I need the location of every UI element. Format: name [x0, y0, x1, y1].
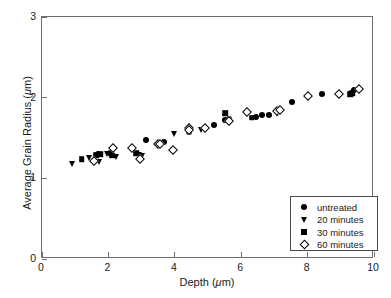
data-point	[249, 115, 255, 121]
data-point	[289, 99, 295, 105]
data-point	[350, 91, 356, 97]
data-point	[319, 91, 325, 97]
scatter-plot-figure: Depth (μm) Average Grain Radius (μm) unt…	[0, 0, 391, 298]
x-axis-tick	[108, 252, 109, 257]
legend-label: 60 minutes	[317, 239, 363, 250]
y-axis-tick	[42, 17, 47, 18]
x-axis-tick	[42, 252, 43, 257]
y-axis-tick	[42, 97, 47, 98]
x-axis-tick-label: 10	[367, 261, 379, 273]
x-axis-tick-label: 0	[38, 261, 44, 273]
y-axis-tick-label: 3	[24, 10, 36, 22]
legend-item: 20 minutes	[291, 214, 377, 226]
data-point	[211, 122, 217, 128]
legend-label: untreated	[317, 202, 357, 213]
x-axis-tick	[241, 252, 242, 257]
x-axis-tick	[307, 252, 308, 257]
data-point	[222, 110, 228, 116]
y-axis-tick-label: 2	[24, 91, 36, 103]
data-point	[168, 145, 178, 155]
legend-item: 60 minutes	[291, 239, 377, 251]
legend-item: untreated	[291, 201, 377, 213]
data-point	[259, 112, 265, 118]
legend-marker-icon	[291, 201, 317, 213]
x-axis-title: Depth (μm)	[41, 276, 373, 288]
y-axis-tick-label: 0	[24, 252, 36, 264]
data-point	[69, 161, 75, 167]
x-axis-tick-label: 4	[171, 261, 177, 273]
legend-marker-icon	[291, 214, 317, 226]
data-point	[110, 153, 116, 159]
x-axis-tick-label: 2	[104, 261, 110, 273]
data-point	[303, 91, 313, 101]
data-point	[335, 89, 345, 99]
legend: untreated20 minutes30 minutes60 minutes	[290, 196, 378, 251]
x-axis-tick	[174, 252, 175, 257]
data-point	[171, 131, 177, 137]
legend-label: 20 minutes	[317, 214, 363, 225]
x-axis-tick-label: 6	[237, 261, 243, 273]
y-axis-tick	[42, 259, 47, 260]
y-axis-title: Average Grain Radius (μm)	[21, 53, 33, 233]
y-axis-tick	[42, 178, 47, 179]
legend-label: 30 minutes	[317, 227, 363, 238]
x-axis-tick-label: 8	[304, 261, 310, 273]
data-point	[79, 156, 85, 162]
x-axis-tick	[374, 252, 375, 257]
legend-item: 30 minutes	[291, 226, 377, 238]
legend-marker-icon	[291, 226, 317, 238]
data-point	[266, 112, 272, 118]
data-point	[98, 151, 104, 157]
y-axis-tick-label: 1	[24, 171, 36, 183]
legend-marker-icon	[291, 239, 317, 251]
data-point	[143, 137, 149, 143]
